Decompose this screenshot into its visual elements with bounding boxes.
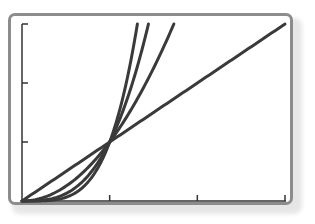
y-ticks	[22, 24, 28, 142]
x-ticks	[110, 195, 285, 201]
curve-x	[22, 24, 285, 201]
graph-plot	[0, 0, 315, 224]
function-curves	[22, 24, 285, 201]
